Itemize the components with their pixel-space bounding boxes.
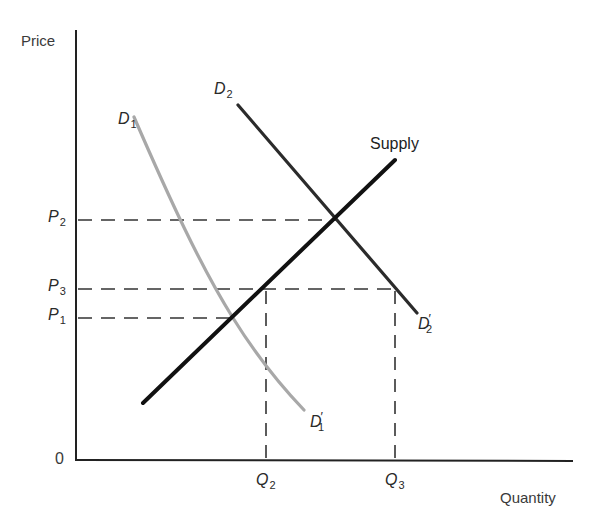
q2-subscript: 2: [269, 479, 275, 491]
p2-letter: P: [48, 208, 59, 225]
supply-label: Supply: [370, 136, 419, 152]
origin-label: 0: [55, 451, 64, 467]
supply-curve: [143, 160, 395, 403]
d1-end-label: D′1: [310, 414, 324, 433]
quantity-label-q2: Q2: [256, 472, 276, 491]
y-axis-label: Price: [21, 33, 55, 48]
q2-letter: Q: [256, 471, 268, 488]
price-label-p3: P3: [48, 278, 66, 297]
p3-subscript: 3: [60, 285, 66, 297]
p2-subscript: 2: [60, 216, 66, 228]
d1-subscript: 1: [131, 118, 137, 130]
d2-subscript: 2: [227, 88, 233, 100]
price-label-p1: P1: [48, 307, 66, 326]
d2-start-label: D2: [214, 81, 233, 100]
d1-start-label: D1: [118, 111, 137, 130]
q3-letter: Q: [385, 471, 397, 488]
price-label-p2: P2: [48, 209, 66, 228]
d1-prime-mark: ′: [321, 409, 323, 424]
d2-end-label: D′2: [418, 316, 432, 335]
demand-curve-d1: [134, 117, 304, 410]
quantity-label-q3: Q3: [385, 472, 405, 491]
p3-letter: P: [48, 277, 59, 294]
supply-demand-diagram: [0, 0, 598, 530]
x-axis: [76, 460, 573, 461]
p1-subscript: 1: [60, 314, 66, 326]
d2-letter: D: [214, 80, 226, 97]
x-axis-label: Quantity: [500, 490, 556, 505]
p1-letter: P: [48, 306, 59, 323]
d1-letter: D: [118, 110, 130, 127]
d2-prime-mark: ′: [429, 311, 431, 326]
q3-subscript: 3: [398, 479, 404, 491]
